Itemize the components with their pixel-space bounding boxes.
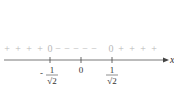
sign-plus: + xyxy=(129,43,135,54)
denominator: √2 xyxy=(47,76,56,86)
axis-arrow-icon xyxy=(163,58,169,63)
label-zero: 0 xyxy=(79,65,84,75)
sign-minus: − xyxy=(73,43,79,54)
numerator: 1 xyxy=(50,65,55,75)
sign-plus: + xyxy=(15,43,21,54)
sign-plus: + xyxy=(151,43,157,54)
sign-plus: + xyxy=(37,43,43,54)
sign-chart: ++++0−−−−−0++++ x - 1 √2 0 1 √2 xyxy=(0,0,174,94)
minus-sign: - xyxy=(40,68,43,78)
sign-minus: − xyxy=(82,43,88,54)
sign-minus: − xyxy=(64,43,70,54)
numerator: 1 xyxy=(110,65,115,75)
denominator: √2 xyxy=(107,76,116,86)
sign-zero: 0 xyxy=(109,43,114,54)
sign-plus: + xyxy=(118,43,124,54)
label-neg-inv-sqrt2: - 1 √2 xyxy=(40,65,58,86)
sign-row: ++++0−−−−−0++++ xyxy=(4,43,157,54)
sign-minus: − xyxy=(55,43,61,54)
sign-zero: 0 xyxy=(48,43,53,54)
sign-minus: − xyxy=(91,43,97,54)
sign-plus: + xyxy=(140,43,146,54)
axis-label: x xyxy=(169,54,174,65)
sign-plus: + xyxy=(4,43,10,54)
sign-plus: + xyxy=(26,43,32,54)
label-pos-inv-sqrt2: 1 √2 xyxy=(106,65,118,86)
